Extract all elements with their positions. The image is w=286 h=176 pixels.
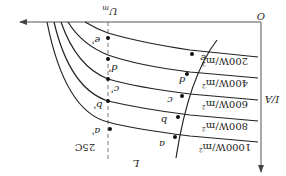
label-e: e xyxy=(200,53,206,64)
curve-400 xyxy=(68,22,258,78)
temperature-label: 25C xyxy=(74,142,95,153)
label-b-prime: b' xyxy=(93,100,102,111)
label-200-text: 200W/m xyxy=(205,56,248,67)
label-600-sup: 2 xyxy=(202,104,206,111)
point-c xyxy=(180,94,184,98)
um-sub: m xyxy=(102,4,109,12)
label-d-prime: d' xyxy=(108,63,117,74)
label-600-text: 600W/m xyxy=(205,99,248,110)
point-a-prime xyxy=(108,127,112,131)
load-line-label: L xyxy=(132,158,140,169)
label-600: 600W/m2 xyxy=(202,99,248,111)
point-e-prime xyxy=(106,36,110,40)
um-label: Um xyxy=(102,4,117,17)
label-400: 400W/m2 xyxy=(202,78,248,90)
point-b-prime xyxy=(106,99,110,103)
label-1000-text: 1000W/m xyxy=(202,142,251,153)
y-axis-label: I/A xyxy=(265,94,281,105)
iv-curve-chart: O I/A Um 25C L 200W/m2 400W/m2 600W/m2 8… xyxy=(0,0,286,176)
curve-200 xyxy=(85,22,258,57)
label-e-prime: e' xyxy=(92,35,101,46)
label-200: 200W/m2 xyxy=(202,56,248,68)
point-d-prime xyxy=(106,57,110,61)
label-c: c xyxy=(167,95,173,106)
label-c-prime: c' xyxy=(111,84,119,95)
point-a xyxy=(173,135,177,139)
origin-label: O xyxy=(257,11,265,22)
label-800-text: 800W/m xyxy=(205,121,248,132)
label-a: a xyxy=(159,139,165,150)
point-e xyxy=(190,52,194,56)
point-b xyxy=(176,115,180,119)
label-d: d xyxy=(179,75,185,86)
label-800-sup: 2 xyxy=(202,126,206,133)
label-400-sup: 2 xyxy=(202,83,206,90)
label-1000: 1000W/m2 xyxy=(199,142,252,154)
label-a-prime: a' xyxy=(92,126,101,137)
label-400-text: 400W/m xyxy=(205,78,248,89)
label-1000-sup: 2 xyxy=(199,147,203,154)
label-b: b xyxy=(161,115,167,126)
label-800: 800W/m2 xyxy=(202,121,248,133)
point-c-prime xyxy=(106,77,110,81)
